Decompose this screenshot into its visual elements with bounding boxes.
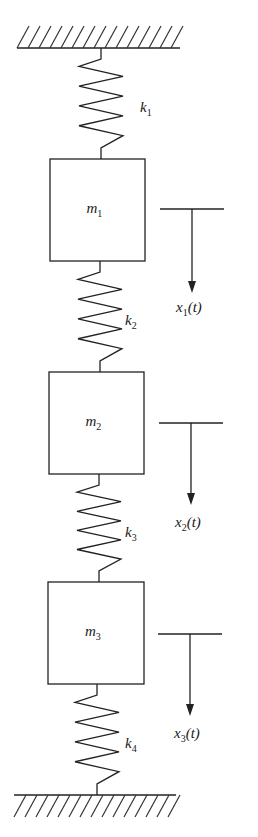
- displacement-label-x2: x2(t): [174, 514, 201, 533]
- spring-label-k4: k4: [125, 735, 137, 754]
- mass-m3: m3: [48, 582, 144, 684]
- bottom-wall: [14, 795, 180, 817]
- mass-label-m2: m2: [86, 413, 102, 432]
- spring-label-k1: k1: [140, 99, 152, 118]
- spring-k1: k1: [79, 48, 152, 159]
- mass-label-m1: m1: [87, 200, 103, 219]
- displacement-x3: x3(t): [158, 634, 222, 744]
- displacement-label-x3: x3(t): [173, 725, 200, 744]
- spring-k2: k2: [78, 261, 137, 372]
- arrow-down-icon: [186, 704, 194, 716]
- spring-label-k2: k2: [125, 312, 137, 331]
- displacement-x2: x2(t): [159, 423, 223, 533]
- spring-k4: k4: [75, 684, 137, 795]
- spring-label-k3: k3: [125, 524, 137, 543]
- spring-mass-diagram: k1k2k3k4 m1m2m3 x1(t)x2(t)x3(t): [0, 0, 258, 837]
- displacement-label-x1: x1(t): [175, 299, 202, 318]
- displacement-x1: x1(t): [160, 209, 224, 318]
- spring-k3: k3: [77, 474, 137, 582]
- mass-label-m3: m3: [85, 623, 101, 642]
- arrow-down-icon: [188, 281, 196, 293]
- arrow-down-icon: [187, 493, 195, 505]
- top-wall: [17, 26, 183, 48]
- mass-m2: m2: [49, 372, 144, 474]
- mass-m1: m1: [50, 159, 145, 261]
